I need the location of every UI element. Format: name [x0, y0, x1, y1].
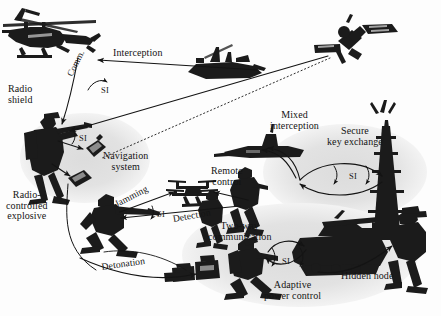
- label-si-2-line-1: SI: [79, 134, 87, 143]
- label-si-4-line-1: SI: [349, 172, 357, 181]
- label-hidden-node-line-1: Hidden node: [341, 271, 393, 282]
- label-two-way-communication: Two-waycommunication: [208, 221, 272, 242]
- diagram-artwork: [0, 0, 441, 316]
- label-si-3-line-1: SI: [157, 210, 165, 219]
- label-radio-controlled-explosive-line-1: Radio-: [6, 190, 48, 201]
- label-adaptive-power-control: Adaptivepower control: [264, 280, 321, 301]
- label-si-2: SI: [79, 134, 87, 143]
- label-adaptive-power-control-line-2: power control: [264, 291, 321, 302]
- label-si-4: SI: [349, 172, 357, 181]
- label-remote-control-line-1: Remote: [211, 166, 243, 177]
- label-radio-shield-line-1: Radio: [8, 84, 33, 95]
- label-mixed-interception: Mixedinterception: [270, 110, 319, 131]
- label-secure-key-exchange-line-1: Secure: [327, 126, 383, 137]
- label-secure-key-exchange-line-2: key exchange: [327, 137, 383, 148]
- label-navigation-system-line-1: Navigation: [103, 151, 148, 162]
- label-mixed-interception-line-2: interception: [270, 121, 319, 132]
- diagram-canvas: InterceptionSIComm.RadioshieldSINavigati…: [0, 0, 441, 316]
- label-remote-control-line-2: control: [211, 177, 243, 188]
- label-two-way-communication-line-2: communication: [208, 232, 272, 243]
- label-radio-controlled-explosive: Radio-controlledexplosive: [6, 190, 48, 222]
- label-navigation-system-line-2: system: [103, 162, 148, 173]
- label-si-5: SI: [282, 257, 290, 266]
- label-si-5-line-1: SI: [282, 257, 290, 266]
- attack-helicopter-silhouette: [2, 8, 101, 58]
- label-si-1: SI: [101, 86, 109, 95]
- label-two-way-communication-line-1: Two-way: [208, 221, 272, 232]
- label-radio-shield-line-2: shield: [8, 95, 33, 106]
- label-secure-key-exchange: Securekey exchange: [327, 126, 383, 147]
- label-si-1-line-1: SI: [101, 86, 109, 95]
- naval-warship-silhouette: [188, 44, 266, 79]
- label-remote-control: Remotecontrol: [211, 166, 243, 187]
- label-radio-shield: Radioshield: [8, 84, 33, 105]
- label-interception-line-1: Interception: [113, 48, 163, 59]
- label-mixed-interception-line-1: Mixed: [270, 110, 319, 121]
- label-interception: Interception: [113, 48, 163, 59]
- label-si-3: SI: [157, 210, 165, 219]
- label-radio-controlled-explosive-line-3: explosive: [6, 211, 48, 222]
- label-navigation-system: Navigationsystem: [103, 151, 148, 172]
- label-adaptive-power-control-line-1: Adaptive: [264, 280, 321, 291]
- label-hidden-node: Hidden node: [341, 271, 393, 282]
